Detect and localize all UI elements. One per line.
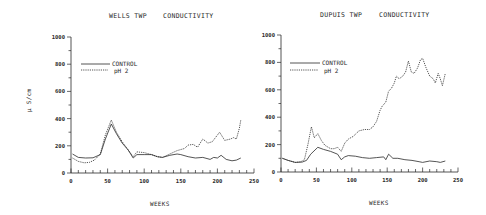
y-tick-label: 200 (55, 143, 65, 149)
axes: 02004006008001000050100150200250 (52, 34, 259, 184)
x-axis-label: WEEKS (369, 199, 389, 206)
x-tick-label: 150 (176, 178, 186, 184)
x-tick-label: 150 (382, 177, 392, 183)
x-tick-label: 200 (418, 177, 428, 183)
y-tick-label: 200 (265, 142, 275, 148)
x-tick-label: 100 (139, 178, 149, 184)
y-tick-label: 600 (265, 87, 275, 93)
y-tick-label: 800 (55, 61, 65, 67)
chart-dupuis-twp: DUPUIS TWP CONDUCTIVITY 0200400600800100… (262, 11, 463, 206)
y-tick-label: 800 (265, 59, 275, 65)
x-tick-label: 100 (347, 177, 357, 183)
axes: 02004006008001000050100150200250 (262, 32, 463, 183)
legend: CONTROL pH 2 (81, 60, 138, 75)
series-control-line (73, 124, 241, 161)
y-tick-label: 0 (62, 170, 65, 176)
y-tick-label: 0 (272, 169, 275, 175)
y-tick-label: 400 (55, 116, 65, 122)
chart-title-name: WELLS TWP (109, 12, 147, 20)
y-tick-label: 1000 (52, 34, 65, 40)
chart-title-name: DUPUIS TWP (320, 11, 362, 19)
y-tick-label: 600 (55, 88, 65, 94)
x-axis-label: WEEKS (150, 200, 170, 207)
figure: WELLS TWP CONDUCTIVITY µ S/cm 0200400600… (0, 0, 486, 215)
series-ph2-line (282, 58, 445, 162)
x-tick-label: 50 (104, 178, 111, 184)
x-tick-label: 0 (69, 178, 72, 184)
legend-label-ph2: pH 2 (114, 67, 129, 75)
y-axis-label: µ S/cm (25, 88, 33, 112)
chart-wells-twp: WELLS TWP CONDUCTIVITY µ S/cm 0200400600… (25, 12, 259, 207)
chart-title-measure: CONDUCTIVITY (379, 11, 430, 19)
x-tick-label: 50 (313, 177, 320, 183)
x-tick-label: 250 (249, 178, 259, 184)
series-ph2-line (73, 120, 241, 163)
x-tick-label: 200 (212, 178, 222, 184)
legend: CONTROL pH 2 (290, 59, 348, 75)
chart-title-measure: CONDUCTIVITY (163, 12, 214, 20)
y-tick-label: 1000 (262, 32, 275, 38)
legend-label-ph2: pH 2 (324, 67, 339, 75)
x-tick-label: 250 (453, 177, 463, 183)
y-tick-label: 400 (265, 114, 275, 120)
legend-label-control: CONTROL (322, 59, 348, 66)
legend-label-control: CONTROL (112, 60, 138, 67)
x-tick-label: 0 (279, 177, 282, 183)
